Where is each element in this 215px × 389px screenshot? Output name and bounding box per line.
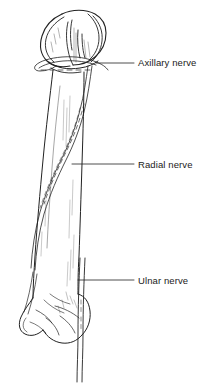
label-radial-nerve: Radial nerve bbox=[138, 160, 193, 170]
label-axillary-nerve: Axillary nerve bbox=[138, 58, 196, 68]
shaft-shading bbox=[41, 96, 74, 286]
anatomy-figure: Axillary nerve Radial nerve Ulnar nerve bbox=[0, 0, 215, 389]
humeral-shaft bbox=[33, 70, 84, 298]
label-ulnar-nerve: Ulnar nerve bbox=[138, 276, 188, 286]
surgical-neck bbox=[49, 61, 98, 73]
distal-humerus bbox=[19, 292, 90, 343]
